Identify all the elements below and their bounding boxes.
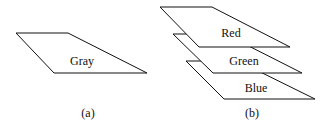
green-plane-label: Green [229, 54, 258, 69]
red-plane-label: Red [221, 26, 240, 41]
diagram: Gray (a) Red Green Blue (b) [0, 0, 330, 128]
planes-drawing [0, 0, 330, 128]
gray-plane-label: Gray [70, 54, 94, 69]
blue-plane-label: Blue [245, 81, 268, 96]
caption-a: (a) [81, 106, 94, 121]
caption-b: (b) [245, 106, 259, 121]
